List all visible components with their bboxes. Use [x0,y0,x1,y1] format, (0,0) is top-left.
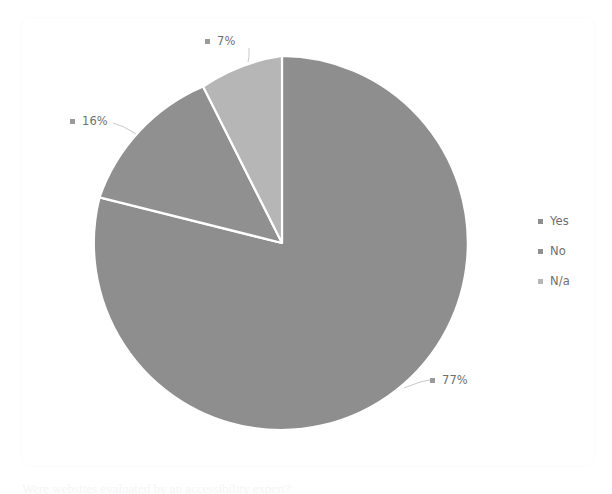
legend-label-no: No [550,244,566,258]
pie-chart-svg [0,0,612,494]
chart-caption: Were websites evaluated by an accessibil… [22,481,291,494]
legend-swatch-no [538,249,543,254]
pie-data-label-marker-no [70,119,75,124]
pie-data-label-text-yes: 77% [442,373,468,387]
chart-legend: Yes No N/a [538,214,570,288]
pie-data-label-yes: 77% [430,373,468,387]
legend-label-yes: Yes [550,214,569,228]
legend-item-na[interactable]: N/a [538,274,570,288]
legend-swatch-na [538,279,543,284]
pie-data-label-marker-yes [430,378,435,383]
leader-line-na [248,48,249,62]
pie-data-label-text-no: 16% [82,114,108,128]
pie-data-label-marker-na [205,39,210,44]
legend-item-yes[interactable]: Yes [538,214,570,228]
legend-swatch-yes [538,219,543,224]
legend-item-no[interactable]: No [538,244,570,258]
leader-line-no [113,123,136,134]
legend-label-na: N/a [550,274,570,288]
pie-data-label-na: 7% [205,34,235,48]
pie-chart-plot-area: 7% 16% 77% [0,0,612,494]
pie-data-label-no: 16% [70,114,108,128]
pie-data-label-text-na: 7% [217,34,235,48]
